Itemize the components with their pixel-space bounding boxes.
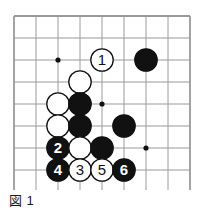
stone-disc: [113, 115, 135, 137]
stone-disc: [135, 49, 157, 71]
stone-move-number: 3: [76, 161, 84, 178]
figure-caption-number: 1: [23, 193, 35, 208]
stone-disc: [91, 137, 113, 159]
stone-move-number: 5: [98, 161, 106, 178]
figure-caption: 図1: [9, 192, 34, 210]
black-stone: 4: [47, 159, 69, 181]
white-stone: [69, 137, 91, 159]
stone-move-number: 2: [54, 139, 62, 156]
black-stone: [91, 137, 113, 159]
white-stone: [47, 93, 69, 115]
black-stone: 6: [113, 159, 135, 181]
black-stone: [113, 115, 135, 137]
stone-move-number: 4: [54, 161, 63, 178]
star-point: [99, 101, 104, 106]
stone-disc: [69, 115, 91, 137]
go-board: 124356: [0, 0, 199, 190]
white-stone: 3: [69, 159, 91, 181]
figure-caption-label: 図: [9, 193, 23, 208]
star-point: [143, 145, 148, 150]
white-stone: [47, 115, 69, 137]
black-stone: [69, 115, 91, 137]
star-point: [55, 57, 60, 62]
black-stone: [69, 93, 91, 115]
stone-move-number: 1: [98, 51, 106, 68]
go-board-svg: 124356: [0, 0, 199, 190]
stone-move-number: 6: [120, 161, 128, 178]
white-stone: 5: [91, 159, 113, 181]
stone-disc: [69, 93, 91, 115]
stone-disc: [69, 71, 91, 93]
black-stone: 2: [47, 137, 69, 159]
white-stone: [69, 71, 91, 93]
white-stone: 1: [91, 49, 113, 71]
stone-disc: [47, 115, 69, 137]
figure-container: 124356 図1: [0, 0, 199, 214]
stone-disc: [69, 137, 91, 159]
black-stone: [135, 49, 157, 71]
stone-disc: [47, 93, 69, 115]
